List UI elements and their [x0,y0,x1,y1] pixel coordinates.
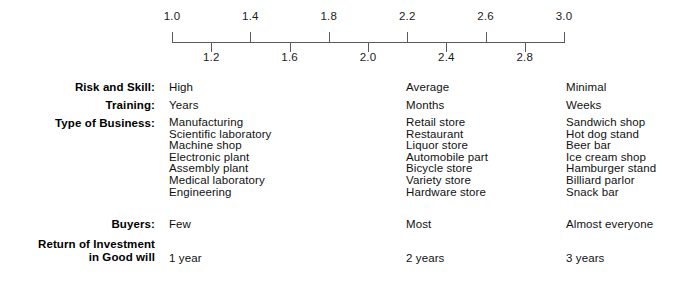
list-item: Sandwich shop [566,117,656,129]
cell-training-col1: Years [169,99,199,112]
cell-type-col2: Retail storeRestaurantLiquor storeAutomo… [406,117,488,198]
cell-type-col3: Sandwich shopHot dog standBeer barIce cr… [566,117,656,198]
scale-axis: 1.01.41.82.22.63.01.21.62.02.42.8 [0,0,682,70]
axis-tick-label-major: 2.2 [399,10,416,22]
cell-training-col3: Weeks [566,99,601,112]
row-label-roi-line2: in Good will [0,251,155,264]
axis-tick-major [172,32,173,43]
cell-type-col1: ManufacturingScientific laboratoryMachin… [169,117,271,198]
row-label-risk-and-skill: Risk and Skill: [0,81,155,94]
cell-roi-col2: 2 years [406,252,444,265]
row-label-type-of-business: Type of Business: [0,117,155,130]
cell-roi-col3: 3 years [566,252,604,265]
axis-tick-label-minor: 2.0 [360,51,377,63]
axis-tick-label-major: 3.0 [556,10,573,22]
chart-figure: 1.01.41.82.22.63.01.21.62.02.42.8 Risk a… [0,0,682,285]
axis-tick-major [250,32,251,43]
cell-training-col2: Months [406,99,444,112]
axis-tick-major [564,32,565,43]
list-item: Manufacturing [169,117,271,129]
cell-buyers-col2: Most [406,218,431,231]
list-item: Billiard parlor [566,175,656,187]
axis-tick-major [486,32,487,43]
axis-tick-major [407,32,408,43]
axis-tick-label-minor: 2.4 [438,51,455,63]
row-label-training: Training: [0,99,155,112]
cell-risk-col3: Minimal [566,81,606,94]
axis-tick-label-major: 2.6 [477,10,494,22]
axis-tick-label-minor: 2.8 [517,51,534,63]
list-item: Retail store [406,117,488,129]
axis-tick-label-major: 1.8 [321,10,338,22]
axis-tick-label-minor: 1.2 [203,51,220,63]
cell-risk-col1: High [169,81,193,94]
list-item: Engineering [169,187,271,199]
list-item: Snack bar [566,187,656,199]
row-label-buyers: Buyers: [0,218,155,231]
cell-risk-col2: Average [406,81,449,94]
row-label-return-of-investment: Return of Investment in Good will [0,238,155,264]
cell-buyers-col3: Almost everyone [566,218,653,231]
cell-buyers-col1: Few [169,218,191,231]
axis-tick-label-minor: 1.6 [281,51,298,63]
list-item: Variety store [406,175,488,187]
axis-tick-major [329,32,330,43]
row-label-roi-line1: Return of Investment [0,238,155,251]
cell-roi-col1: 1 year [169,252,202,265]
list-item: Hardware store [406,187,488,199]
list-item: Medical laboratory [169,175,271,187]
axis-tick-label-major: 1.0 [164,10,181,22]
axis-tick-label-major: 1.4 [242,10,259,22]
